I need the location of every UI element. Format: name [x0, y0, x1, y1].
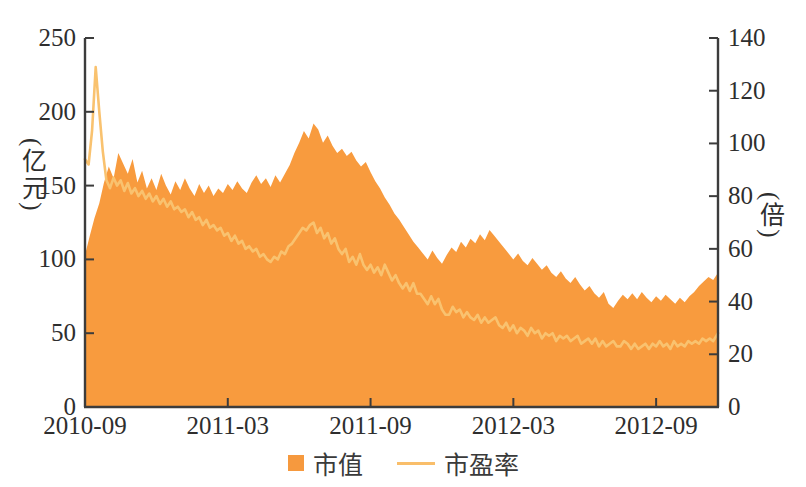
- x-tick-label: 2012-09: [614, 412, 697, 439]
- x-tick-label: 2011-03: [187, 412, 269, 439]
- legend-label-pe-ratio: 市盈率: [444, 445, 519, 481]
- chart: 0501001502002500204060801001201402010-09…: [0, 0, 806, 487]
- right-tick-label: 120: [728, 77, 766, 104]
- left-tick-label: 200: [39, 98, 77, 125]
- plot-svg: 0501001502002500204060801001201402010-09…: [0, 0, 806, 487]
- left-axis-unit-label: (亿元): [14, 138, 50, 213]
- legend-label-market-cap: 市值: [313, 445, 363, 481]
- right-tick-label: 140: [728, 24, 766, 51]
- right-axis-unit-label: (倍): [752, 192, 788, 240]
- market-cap-area: [85, 124, 718, 407]
- x-tick-label: 2012-03: [472, 412, 555, 439]
- legend-item-pe-ratio: 市盈率: [397, 445, 519, 481]
- legend-item-market-cap: 市值: [288, 445, 363, 481]
- right-tick-label: 40: [728, 288, 753, 315]
- right-tick-label: 80: [728, 182, 753, 209]
- x-tick-label: 2011-09: [329, 412, 411, 439]
- left-tick-label: 50: [51, 319, 76, 346]
- x-tick-label: 2010-09: [43, 412, 126, 439]
- area-swatch-icon: [288, 455, 304, 471]
- left-tick-label: 100: [39, 245, 77, 272]
- right-tick-label: 0: [728, 393, 741, 420]
- legend: 市值 市盈率: [0, 446, 806, 480]
- right-tick-label: 60: [728, 235, 753, 262]
- right-tick-label: 100: [728, 129, 766, 156]
- right-tick-label: 20: [728, 340, 753, 367]
- line-swatch-icon: [397, 462, 435, 465]
- left-tick-label: 250: [39, 24, 77, 51]
